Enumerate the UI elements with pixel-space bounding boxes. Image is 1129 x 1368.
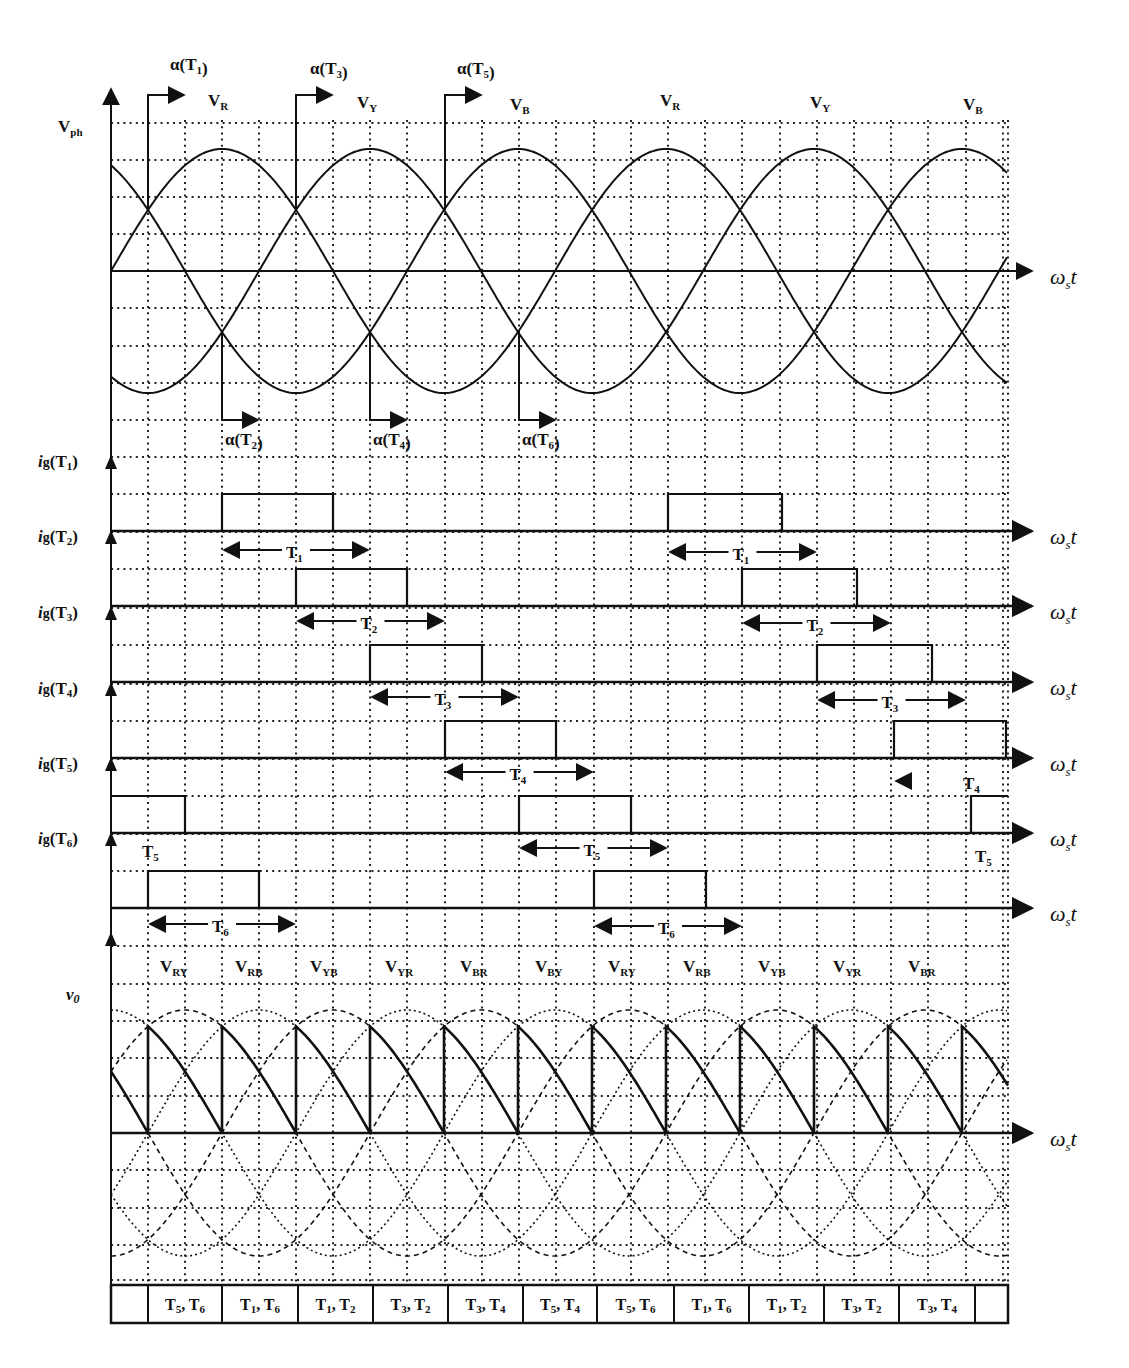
firing-angle-label: α(T1) [170, 55, 208, 78]
conduction-span-label: T4 [963, 774, 980, 795]
gate-pulse [296, 569, 407, 606]
vo-y-arrow-icon [105, 932, 117, 946]
conduction-span-label: T6 [658, 919, 675, 940]
gate-pulse [817, 645, 932, 682]
line-voltage-label-yb: VYB [758, 957, 786, 978]
table-cell-label: T5, T4 [540, 1296, 581, 1315]
line-voltage-label-rb: VRB [235, 957, 263, 978]
table-cell-label: T3, T4 [465, 1296, 506, 1315]
gate-pulse [222, 494, 333, 531]
gate-y-arrow-icon [105, 606, 117, 620]
table-cell-label: T5, T6 [615, 1296, 656, 1315]
gate-label-t3: ig(T3) [38, 603, 78, 623]
table-cell-label: T3, T4 [917, 1296, 958, 1315]
omega-s-t-axis-label: ωst [1050, 675, 1078, 703]
vph-axis-label: Vph [58, 117, 83, 138]
firing-angle-arrow [519, 332, 555, 420]
conduction-span-label: T5 [975, 847, 992, 868]
line-voltage-label-by: VBY [535, 957, 563, 978]
line-voltage-label-rb: VRB [683, 957, 711, 978]
firing-angle-arrow [148, 95, 184, 210]
line-voltage-label-ry: VRY [608, 957, 636, 978]
table-cell-label: T3, T2 [390, 1296, 431, 1315]
conduction-span-label: T2 [361, 614, 378, 635]
phase-label-r: VR [660, 91, 681, 112]
gate-pulse [445, 721, 556, 758]
omega-s-t-axis-label: ωst [1050, 524, 1078, 552]
line-voltage-label-yr: VYR [385, 957, 414, 978]
omega-s-t-axis-label: ωst [1050, 826, 1078, 854]
phase-label-r: VR [208, 91, 229, 112]
table-cell-label: T3, T2 [841, 1296, 882, 1315]
firing-angle-label: α(T2) [225, 430, 263, 453]
gate-pulse [894, 721, 1006, 758]
firing-angle-label: α(T5) [457, 59, 495, 82]
gate-label-t1: ig(T1) [38, 452, 78, 472]
line-voltage-label-br: VBR [460, 957, 489, 978]
conduction-span-label: T5 [142, 842, 159, 863]
conduction-span-label: T2 [807, 616, 824, 637]
omega-s-t-axis-label: ωst [1050, 751, 1078, 779]
gate-pulse-plots: ig(T1)ωstT1T1ig(T2)ωstT2T2ig(T3)ωstT3T3i… [38, 452, 1078, 940]
gate-y-arrow-icon [105, 455, 117, 469]
gate-y-arrow-icon [105, 682, 117, 696]
line-voltage-label-yr: VYR [833, 957, 862, 978]
firing-angle-arrow [296, 95, 332, 210]
firing-angle-label: α(T6) [522, 430, 560, 453]
table-cell-label: T1, T6 [691, 1296, 732, 1315]
firing-angle-label: α(T4) [373, 430, 411, 453]
conduction-span-label: T5 [584, 841, 601, 862]
gate-pulse [742, 569, 857, 606]
conduction-sequence-table: T5, T6T1, T6T1, T2T3, T2T3, T4T5, T4T5, … [111, 1285, 1008, 1323]
conduction-span-label: T4 [510, 765, 527, 786]
phase-voltage-plot: VphωstVRVYVBVRVYVBα(T1)α(T3)α(T5)α(T2)α(… [58, 55, 1078, 1285]
gate-pulse [148, 871, 259, 908]
firing-angle-arrow [222, 332, 258, 420]
conduction-span-label: T3 [435, 690, 452, 711]
three-phase-converter-waveform-diagram: VphωstVRVYVBVRVYVBα(T1)α(T3)α(T5)α(T2)α(… [0, 0, 1129, 1368]
gate-pulse [519, 796, 631, 833]
line-voltage-label-yb: VYB [310, 957, 338, 978]
gate-label-t4: ig(T4) [38, 679, 78, 699]
phase-label-y: VY [357, 93, 377, 114]
gate-pulse [370, 645, 482, 682]
conduction-span-label: T3 [882, 693, 899, 714]
omega-s-t-axis-label: ωst [1050, 264, 1078, 292]
omega-s-t-axis-label: ωst [1050, 1126, 1078, 1154]
conduction-span-label: T6 [212, 917, 229, 938]
firing-angle-arrow [370, 332, 406, 420]
gate-pulse [594, 871, 706, 908]
table-cell-label: T5, T6 [165, 1296, 206, 1315]
vo-axis-label: v0 [66, 985, 80, 1006]
table-cell-label: T1, T2 [315, 1296, 356, 1315]
firing-angle-arrow [445, 95, 481, 210]
phase-label-y: VY [810, 93, 830, 114]
gate-label-t5: ig(T5) [38, 754, 78, 774]
phase-label-b: VB [510, 95, 530, 116]
gate-pulse [668, 494, 782, 531]
omega-s-t-axis-label: ωst [1050, 901, 1078, 929]
firing-angle-label: α(T3) [310, 59, 348, 82]
omega-s-t-axis-label: ωst [1050, 599, 1078, 627]
line-voltage-label-br: VBR [908, 957, 937, 978]
conduction-span-label: T1 [733, 545, 750, 566]
phase-label-b: VB [963, 95, 983, 116]
line-voltage-label-ry: VRY [160, 957, 188, 978]
gate-label-t6: ig(T6) [38, 829, 78, 849]
conduction-span-label: T1 [286, 543, 303, 564]
table-cell-label: T1, T2 [766, 1296, 807, 1315]
table-cell-label: T1, T6 [240, 1296, 281, 1315]
gate-label-t2: ig(T2) [38, 527, 78, 547]
